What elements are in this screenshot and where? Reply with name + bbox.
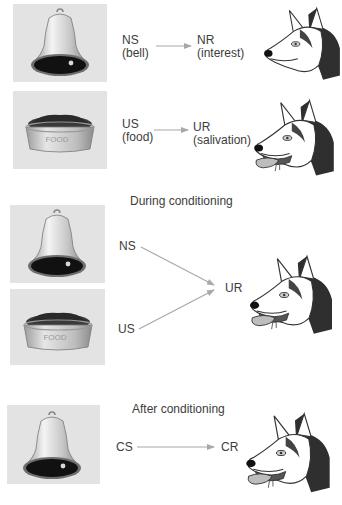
arrow-us-to-ur-during — [139, 290, 214, 329]
arrow-ns-to-ur-during — [141, 247, 214, 285]
